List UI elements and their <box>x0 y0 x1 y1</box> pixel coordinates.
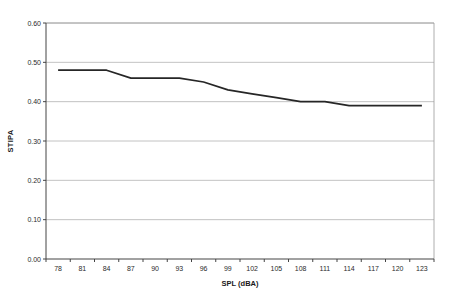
y-tick-label: 0.20 <box>27 177 41 184</box>
x-tick-label: 99 <box>224 265 232 272</box>
y-axis-title: STIPA <box>6 129 15 152</box>
x-tick-label: 78 <box>54 265 62 272</box>
x-tick-label: 120 <box>392 265 404 272</box>
y-tick-label: 0.40 <box>27 98 41 105</box>
y-tick-label: 0.30 <box>27 138 41 145</box>
x-axis-title: SPL (dBA) <box>222 279 259 288</box>
x-tick-label: 84 <box>103 265 111 272</box>
x-tick-label: 90 <box>151 265 159 272</box>
stipa-vs-spl-chart: 0.000.100.200.300.400.500.60788184879093… <box>0 0 455 299</box>
x-tick-label: 102 <box>246 265 258 272</box>
x-tick-label: 96 <box>200 265 208 272</box>
x-tick-label: 108 <box>295 265 307 272</box>
x-tick-label: 111 <box>320 265 331 272</box>
y-tick-label: 0.10 <box>27 216 41 223</box>
x-tick-label: 117 <box>368 265 379 272</box>
y-tick-label: 0.50 <box>27 59 41 66</box>
x-tick-label: 105 <box>271 265 283 272</box>
x-tick-label: 93 <box>175 265 183 272</box>
x-tick-label: 123 <box>416 265 428 272</box>
plot-area: 0.000.100.200.300.400.500.60788184879093… <box>0 0 455 299</box>
y-tick-label: 0.00 <box>27 256 41 263</box>
x-tick-label: 81 <box>78 265 86 272</box>
x-tick-label: 87 <box>127 265 135 272</box>
y-tick-label: 0.60 <box>27 20 41 27</box>
x-tick-label: 114 <box>344 265 355 272</box>
